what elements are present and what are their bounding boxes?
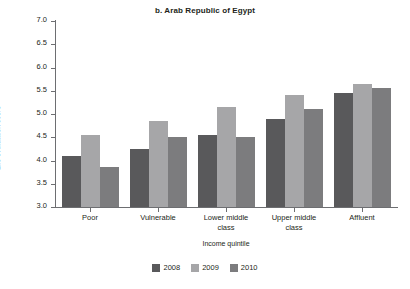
bar-2009	[285, 95, 304, 207]
x-axis-category-label: Lower middleclass	[192, 213, 260, 232]
bar-group-bars	[328, 21, 396, 207]
legend-label: 2008	[163, 263, 180, 272]
bar-2008	[334, 93, 353, 207]
x-axis-category-label-line: class	[192, 223, 260, 233]
x-axis-tick-mark	[226, 207, 227, 212]
bar-2009	[149, 121, 168, 207]
x-axis-category-label-line: Lower middle	[192, 213, 260, 223]
bar-2010	[372, 88, 391, 207]
y-axis-tick-label: 7.0	[37, 15, 47, 24]
chart-legend: 200820092010	[0, 263, 410, 272]
x-axis-category-label-line: Vulnerable	[124, 213, 192, 223]
bar-2010	[236, 137, 255, 207]
bar-group-bars	[260, 21, 328, 207]
bar-group: Vulnerable	[124, 21, 192, 207]
x-axis-title: Income quintile	[56, 240, 396, 247]
x-axis-category-label: Poor	[56, 213, 124, 223]
bar-2008	[62, 156, 81, 207]
y-axis-tick-label: 3.0	[37, 201, 47, 210]
chart-figure: b. Arab Republic of Egypt 7.06.56.05.55.…	[0, 0, 410, 289]
legend-swatch-icon	[152, 264, 160, 272]
y-axis-tick-label: 4.5	[37, 131, 47, 140]
y-axis-tick-label: 5.5	[37, 85, 47, 94]
x-axis-tick-mark	[362, 207, 363, 212]
x-axis-category-label-line: Upper middle	[260, 213, 328, 223]
bar-2010	[168, 137, 187, 207]
x-axis-tick-mark	[294, 207, 295, 212]
bar-2010	[100, 167, 119, 207]
legend-label: 2009	[202, 263, 219, 272]
legend-item-2010[interactable]: 2010	[230, 263, 258, 272]
bar-group-bars	[192, 21, 260, 207]
legend-item-2008[interactable]: 2008	[152, 263, 180, 272]
legend-label: 2010	[241, 263, 258, 272]
bar-2008	[130, 149, 149, 207]
bar-group-bars	[56, 21, 124, 207]
x-axis-category-label: Vulnerable	[124, 213, 192, 223]
y-axis-tick-label: 6.0	[37, 62, 47, 71]
y-axis-tick-label: 3.5	[37, 178, 47, 187]
bar-2008	[266, 119, 285, 207]
bar-group: Poor	[56, 21, 124, 207]
bar-group: Lower middleclass	[192, 21, 260, 207]
x-axis-category-label-line: Affluent	[328, 213, 396, 223]
chart-title: b. Arab Republic of Egypt	[0, 6, 410, 15]
x-axis-category-label-line: class	[260, 223, 328, 233]
bar-2008	[198, 135, 217, 207]
x-axis-category-label: Upper middleclass	[260, 213, 328, 232]
bar-group: Upper middleclass	[260, 21, 328, 207]
bar-2009	[81, 135, 100, 207]
bar-2009	[217, 107, 236, 207]
y-axis-tick-label: 6.5	[37, 38, 47, 47]
y-axis-title: Life evaluation score	[0, 78, 1, 198]
x-axis-tick-mark	[158, 207, 159, 212]
y-axis-tick-label: 4.0	[37, 155, 47, 164]
legend-swatch-icon	[191, 264, 199, 272]
plot-area: PoorVulnerableLower middleclassUpper mid…	[56, 21, 396, 207]
bar-group-bars	[124, 21, 192, 207]
x-axis-tick-mark	[90, 207, 91, 212]
bar-2010	[304, 109, 323, 207]
legend-swatch-icon	[230, 264, 238, 272]
y-axis-tick-label: 5.0	[37, 108, 47, 117]
legend-item-2009[interactable]: 2009	[191, 263, 219, 272]
x-axis-category-label: Affluent	[328, 213, 396, 223]
y-axis-tick-mark	[51, 207, 56, 208]
bar-2009	[353, 84, 372, 207]
bar-group: Affluent	[328, 21, 396, 207]
x-axis-category-label-line: Poor	[56, 213, 124, 223]
